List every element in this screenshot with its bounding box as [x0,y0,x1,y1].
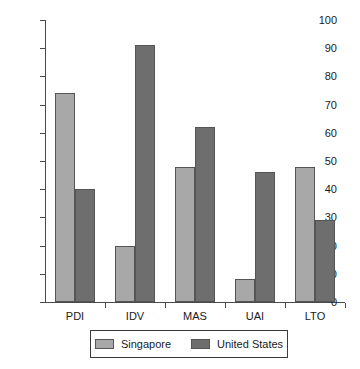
y-axis-tick-label: 100 [319,15,337,26]
bar-uai-singapore [235,279,255,302]
bar-idv-united-states [135,45,155,302]
plot-area: 0102030405060708090100 PDIIDVMASUAILTO [45,20,345,302]
bar-chart: 0102030405060708090100 PDIIDVMASUAILTO S… [0,0,360,369]
y-axis-tick-label: 50 [325,156,337,167]
bar-mas-united-states [195,127,215,302]
bar-uai-united-states [255,172,275,302]
y-axis-tick [40,20,45,21]
y-axis-tick-label: 60 [325,127,337,138]
y-axis-tick [40,161,45,162]
bar-lto-united-states [315,220,335,302]
y-axis-line [45,20,46,303]
x-axis-label-pdi: PDI [66,311,84,322]
legend-item-united-states: United States [191,339,283,350]
y-axis-tick [40,274,45,275]
bar-idv-singapore [115,246,135,302]
bar-lto-singapore [295,167,315,302]
legend-label-singapore: Singapore [121,339,171,350]
y-axis-tick [40,217,45,218]
x-axis-label-mas: MAS [183,311,207,322]
legend-swatch-united-states [191,339,210,349]
bar-mas-singapore [175,167,195,302]
legend-swatch-singapore [95,339,114,349]
y-axis-tick [40,105,45,106]
x-axis-line [45,302,345,303]
y-axis-tick-label: 90 [325,43,337,54]
x-axis-label-uai: UAI [246,311,264,322]
x-axis-label-idv: IDV [126,311,144,322]
x-axis-tick [345,303,346,308]
y-axis-tick-label: 40 [325,184,337,195]
bar-pdi-singapore [55,93,75,302]
y-axis-tick-label: 80 [325,71,337,82]
x-axis-tick [105,303,106,308]
x-axis-tick [285,303,286,308]
bar-pdi-united-states [75,189,95,302]
y-axis-tick [40,246,45,247]
legend-item-singapore: Singapore [95,339,171,350]
y-axis-tick [40,76,45,77]
y-axis-tick-label: 70 [325,99,337,110]
y-axis-tick [40,133,45,134]
y-axis-tick [40,48,45,49]
x-axis-label-lto: LTO [305,311,325,322]
legend-label-united-states: United States [217,339,283,350]
x-axis-tick [225,303,226,308]
y-axis-tick [40,302,45,303]
x-axis-tick [165,303,166,308]
chart-legend: Singapore United States [90,330,288,358]
y-axis-tick [40,189,45,190]
